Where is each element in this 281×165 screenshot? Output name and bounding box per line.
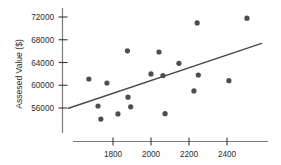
data-point [160,73,165,78]
data-point [115,111,120,116]
x-tick-label: 2200 [180,150,199,159]
data-point [86,76,91,81]
x-tick-label: 2400 [218,150,237,159]
plot-area: 5600060000640006800072000 18002000220024… [0,0,281,165]
data-point [196,72,201,77]
y-axis-label: Assesed Value ($) [14,39,24,109]
x-tick-label: 1800 [104,150,123,159]
y-tick-label: 64000 [31,59,54,68]
x-tick-labels: 1800200022002400 [104,150,237,159]
x-tick-label: 2000 [142,150,161,159]
data-point [226,78,231,83]
y-axis-label-group: Assesed Value ($) [14,39,24,109]
data-point [125,95,130,100]
scatter-chart: 5600060000640006800072000 18002000220024… [0,0,281,165]
data-point [95,103,100,108]
data-point [104,80,109,85]
data-point [162,111,167,116]
y-tick-labels: 5600060000640006800072000 [31,13,54,113]
y-tick-label: 60000 [31,81,54,90]
data-point [195,20,200,25]
data-point [98,116,103,121]
data-point [191,88,196,93]
data-point [244,16,249,21]
y-tick-label: 56000 [31,104,54,113]
data-point [128,104,133,109]
data-point [156,49,161,54]
y-tick-label: 68000 [31,36,54,45]
data-point [125,48,130,53]
y-tick-label: 72000 [31,13,54,22]
data-points-group [86,16,249,122]
data-point [176,61,181,66]
data-point [148,71,153,76]
